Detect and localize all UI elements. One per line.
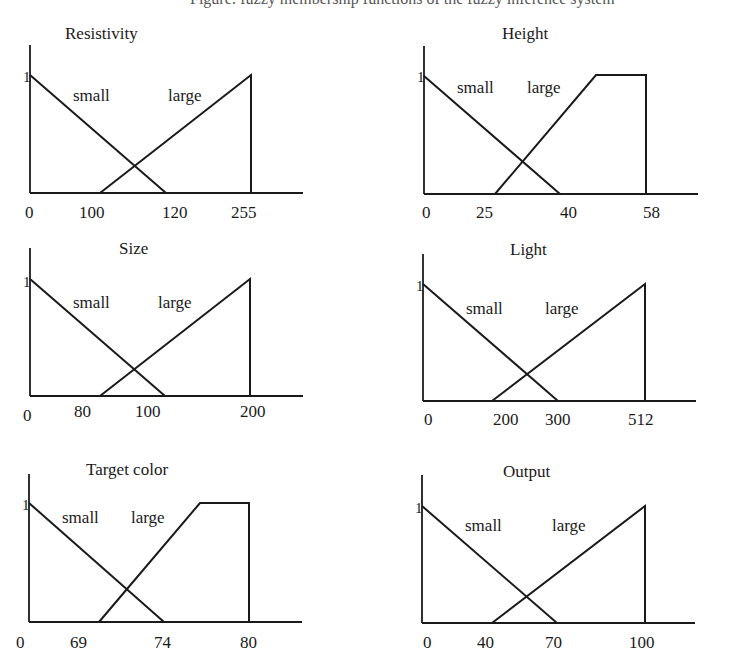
- chart-title: Target color: [86, 460, 168, 479]
- x-tick-label: 74: [154, 633, 172, 652]
- series-large-label: large: [527, 78, 561, 97]
- series-small-label: small: [62, 508, 99, 527]
- x-tick-label: 40: [560, 203, 577, 222]
- x-tick-label: 0: [23, 406, 32, 425]
- x-tick-label: 200: [240, 402, 266, 421]
- chart-height: Height 1 small large 0 25 40 58: [417, 24, 698, 222]
- figure-caption: Figure: fuzzy membership functions of th…: [190, 0, 615, 8]
- x-tick-label: 0: [422, 203, 431, 222]
- x-tick-label: 200: [493, 410, 519, 429]
- series-large-line: [99, 503, 249, 622]
- x-tick-label: 0: [423, 633, 432, 652]
- chart-target-color: Target color 1 small large 0 69 74 80: [16, 460, 302, 652]
- chart-title: Resistivity: [65, 24, 138, 43]
- series-large-label: large: [168, 86, 202, 105]
- y-max-label: 1: [416, 278, 424, 294]
- series-large-label: large: [552, 516, 586, 535]
- series-small-label: small: [73, 86, 110, 105]
- chart-resistivity: Resistivity 1 small large 0 100 120 255: [23, 24, 303, 222]
- x-tick-label: 70: [545, 633, 562, 652]
- x-tick-label: 120: [162, 203, 188, 222]
- x-tick-label: 512: [628, 410, 654, 429]
- series-small-label: small: [465, 516, 502, 535]
- x-tick-label: 80: [74, 402, 91, 421]
- series-small-label: small: [466, 299, 503, 318]
- x-tick-label: 0: [25, 203, 34, 222]
- x-tick-label: 40: [477, 633, 494, 652]
- x-tick-label: 69: [70, 633, 87, 652]
- y-max-label: 1: [23, 69, 31, 85]
- x-tick-label: 0: [16, 633, 25, 652]
- x-tick-label: 25: [476, 203, 493, 222]
- x-tick-label: 100: [79, 203, 105, 222]
- series-small-label: small: [73, 293, 110, 312]
- x-tick-label: 58: [643, 203, 660, 222]
- x-tick-label: 255: [231, 203, 257, 222]
- chart-light: Light 1 small large 0 200 300 512: [416, 240, 696, 429]
- x-tick-label: 300: [545, 410, 571, 429]
- chart-title: Light: [510, 240, 547, 259]
- series-large-label: large: [545, 299, 579, 318]
- x-tick-label: 80: [240, 633, 257, 652]
- chart-output: Output 1 small large 0 40 70 100: [415, 462, 695, 652]
- y-max-label: 1: [23, 274, 31, 290]
- membership-functions-figure: Figure: fuzzy membership functions of th…: [0, 0, 735, 671]
- series-large-label: large: [158, 293, 192, 312]
- x-tick-label: 100: [629, 633, 655, 652]
- series-small-label: small: [457, 78, 494, 97]
- chart-title: Size: [119, 239, 148, 258]
- chart-title: Output: [503, 462, 551, 481]
- series-large-label: large: [131, 508, 165, 527]
- chart-title: Height: [502, 24, 549, 43]
- x-tick-label: 100: [135, 402, 161, 421]
- x-tick-label: 0: [424, 410, 433, 429]
- y-max-label: 1: [415, 500, 423, 516]
- y-max-label: 1: [417, 69, 425, 85]
- series-large-line: [495, 75, 646, 194]
- y-max-label: 1: [22, 497, 30, 513]
- chart-size: Size 1 small large 0 80 100 200: [23, 239, 303, 425]
